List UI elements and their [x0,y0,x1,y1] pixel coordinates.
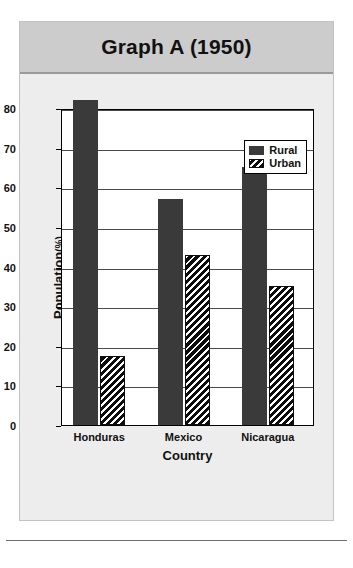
bar-mexico-urban [185,255,210,425]
legend-item-rural: Rural [249,144,301,157]
y-axis-tick-label: 70 [0,143,16,155]
figure-panel: Graph A (1950) Population(%) Rural Urban [19,21,334,521]
legend-swatch-rural-icon [249,146,264,155]
y-axis-tick-mark [56,307,61,308]
legend-label-urban: Urban [269,158,301,169]
y-axis-tick-label: 10 [0,380,16,392]
y-axis-tick-mark [56,386,61,387]
x-axis-tick-label: Mexico [165,431,202,443]
y-axis-tick-label: 50 [0,222,16,234]
y-axis-tick-label: 20 [0,341,16,353]
y-axis-tick-mark [56,268,61,269]
x-axis-tick-label: Honduras [73,431,124,443]
chart-page: Graph A (1950) Population(%) Rural Urban [0,0,353,568]
y-axis-tick-mark [56,228,61,229]
y-axis-tick-mark [56,109,61,110]
y-axis-tick-label: 60 [0,182,16,194]
legend-item-urban: Urban [249,157,301,170]
y-axis-tick-label: 30 [0,301,16,313]
gridline [62,189,313,190]
chart-legend: Rural Urban [244,140,307,174]
bar-mexico-rural [158,199,183,425]
bar-honduras-urban [100,356,125,425]
bar-honduras-rural [73,100,98,425]
legend-label-rural: Rural [269,145,297,156]
y-axis-tick-mark [56,347,61,348]
y-axis-tick-mark [56,188,61,189]
legend-swatch-urban-icon [249,159,264,168]
x-axis-title: Country [163,448,213,463]
bar-nicaragua-rural [242,167,267,425]
gridline [62,110,313,111]
x-axis-tick-label: Nicaragua [241,431,294,443]
gridline [62,229,313,230]
y-axis-tick-mark [56,426,61,427]
y-axis-tick-label: 80 [0,103,16,115]
page-bottom-rule [6,540,347,541]
bar-nicaragua-urban [269,286,294,425]
y-axis-tick-label: 0 [0,420,16,432]
chart-title-band: Graph A (1950) [20,22,333,74]
y-axis-tick-label: 40 [0,262,16,274]
y-axis-tick-mark [56,149,61,150]
plot-area: Rural Urban [61,109,314,426]
chart-title: Graph A (1950) [101,35,252,59]
plot-wrapper: Population(%) Rural Urban 01020304050607 [61,109,314,426]
